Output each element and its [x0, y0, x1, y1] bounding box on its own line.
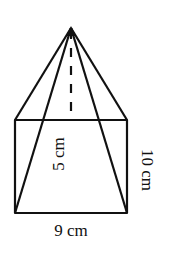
edge-right-back — [71, 28, 127, 120]
base-rectangle — [15, 120, 127, 213]
apex-point — [66, 26, 76, 36]
edge-left-back — [15, 28, 71, 120]
slant-height-label: 10 cm — [138, 149, 157, 191]
pyramid-diagram: 9 cm 10 cm 5 cm — [0, 0, 176, 254]
height-label: 5 cm — [49, 137, 68, 171]
base-width-label: 9 cm — [54, 221, 88, 240]
